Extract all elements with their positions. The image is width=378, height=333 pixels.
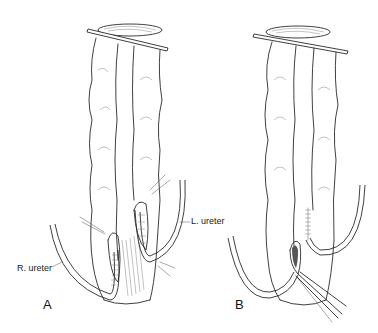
illustration-drawing [0,0,378,333]
panel-b-drawing [228,26,365,322]
panel-a-drawing [50,24,190,304]
surgical-illustration: R. ureter L. ureter A B [0,0,378,333]
panel-a-letter: A [43,297,52,312]
right-ureter-label: R. ureter [17,263,52,273]
stoma-disc-b [266,26,330,38]
panel-b-letter: B [235,297,244,312]
left-ureter-label: L. ureter [191,216,225,226]
